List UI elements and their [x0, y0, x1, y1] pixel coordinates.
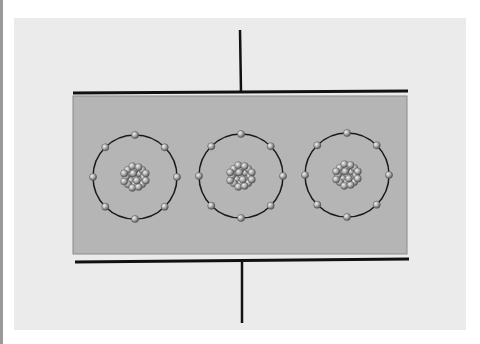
nucleon: [135, 164, 142, 171]
capacitor-diagram: [0, 0, 480, 344]
electron: [102, 203, 109, 210]
nucleon: [333, 168, 340, 175]
nucleon: [129, 163, 136, 170]
nucleon: [142, 177, 149, 184]
nucleon: [241, 163, 248, 170]
nucleon: [227, 169, 234, 176]
electron: [131, 215, 138, 222]
nucleon: [235, 183, 242, 190]
electron: [161, 203, 168, 210]
electron: [314, 201, 321, 208]
electron: [343, 129, 350, 136]
electron: [161, 144, 168, 151]
nucleon: [133, 177, 140, 184]
electron: [173, 173, 180, 180]
electron: [267, 202, 274, 209]
nucleon: [345, 175, 352, 182]
electron: [301, 171, 308, 178]
nucleon: [354, 168, 361, 175]
electron: [195, 172, 202, 179]
nucleon: [236, 169, 243, 176]
nucleon: [248, 169, 255, 176]
top-lead-wire: [240, 30, 241, 92]
electron: [314, 142, 321, 149]
nucleon: [341, 182, 348, 189]
nucleon: [241, 182, 248, 189]
nucleon: [142, 170, 149, 177]
nucleon: [354, 175, 361, 182]
electron: [279, 172, 286, 179]
electron: [267, 143, 274, 150]
nucleon: [129, 184, 136, 191]
nucleon: [347, 162, 354, 169]
nucleon: [342, 168, 349, 175]
nucleon: [130, 170, 137, 177]
nucleon: [121, 170, 128, 177]
nucleon: [239, 176, 246, 183]
nucleon: [347, 181, 354, 188]
nucleon: [135, 183, 142, 190]
nucleon: [235, 162, 242, 169]
electron: [385, 171, 392, 178]
electron: [373, 142, 380, 149]
nucleon: [341, 161, 348, 168]
electron: [343, 213, 350, 220]
electron: [208, 202, 215, 209]
electron: [89, 173, 96, 180]
electron: [102, 144, 109, 151]
nucleon: [121, 178, 128, 185]
electron: [131, 131, 138, 138]
top-plate: [73, 91, 408, 93]
electron: [237, 130, 244, 137]
electron: [373, 201, 380, 208]
nucleon: [227, 177, 234, 184]
nucleon: [333, 176, 340, 183]
electron: [237, 214, 244, 221]
electron: [208, 143, 215, 150]
nucleon: [248, 176, 255, 183]
